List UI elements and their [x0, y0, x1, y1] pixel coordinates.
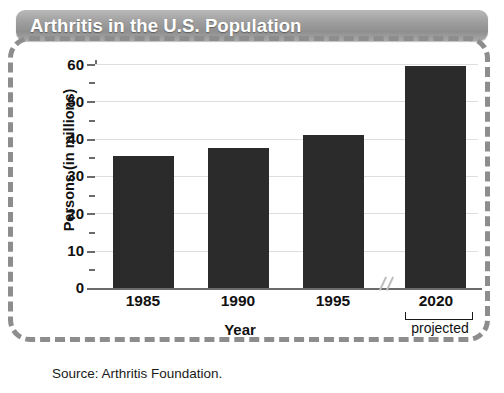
- x-tick-label-1995: 1995: [293, 292, 373, 310]
- bar-1990: [208, 148, 269, 288]
- x-axis-line: [95, 288, 482, 290]
- axis-break-icon: [378, 276, 400, 292]
- projected-label: projected: [395, 320, 485, 336]
- y-axis-labels: 60 50 40 30 20 10 0 Persons (in millions…: [40, 0, 84, 393]
- source-note: Source: Arthritis Foundation.: [52, 366, 222, 381]
- x-tick-label-1990: 1990: [198, 292, 278, 310]
- bar-1985: [113, 156, 174, 289]
- bar-1995: [303, 135, 364, 288]
- y-tick-label-0: 0: [48, 279, 84, 296]
- x-tick-label-1985: 1985: [103, 292, 183, 310]
- x-tick-label-2020: 2020: [396, 292, 476, 310]
- gridline-60: [95, 64, 478, 65]
- x-axis-title: Year: [170, 321, 310, 338]
- projected-bracket: [405, 312, 473, 320]
- y-axis-title: Persons (in millions): [61, 70, 77, 250]
- plot-area: [95, 64, 478, 288]
- bar-chart: 60 50 40 30 20 10 0 Persons (in millions…: [0, 0, 504, 393]
- bar-2020: [405, 66, 466, 288]
